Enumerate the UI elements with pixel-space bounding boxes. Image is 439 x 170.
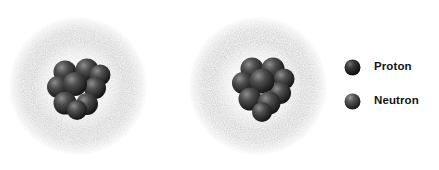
legend-label-neutron: Neutron (374, 95, 419, 107)
legend-item-proton: Proton (338, 57, 439, 77)
atom-left (3, 11, 153, 161)
legend-label-proton: Proton (374, 61, 412, 73)
atom-right-graphic (183, 11, 333, 161)
legend: Proton Neutron (338, 52, 439, 118)
proton-sphere-icon (344, 59, 361, 76)
atom-left-graphic (3, 11, 153, 161)
legend-item-neutron: Neutron (338, 91, 439, 111)
atom-diagram: Proton Neutron (0, 0, 439, 170)
neutron-sphere-icon (344, 93, 361, 110)
atom-right (183, 11, 333, 161)
